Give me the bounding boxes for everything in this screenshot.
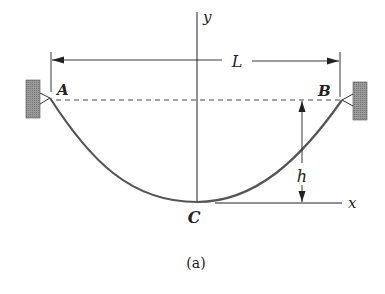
cable-curve xyxy=(50,98,342,202)
sag-arrowhead-bottom xyxy=(299,191,306,202)
sag-arrowhead-top xyxy=(299,101,306,112)
point-c-label: C xyxy=(188,208,201,227)
span-arrowhead-right xyxy=(327,58,339,65)
support-b-label: B xyxy=(317,82,331,100)
support-a-label: A xyxy=(55,81,69,99)
left-wall-support xyxy=(26,80,40,118)
sag-label: h xyxy=(297,167,307,186)
figure-caption: (a) xyxy=(186,255,205,271)
x-axis-label: x xyxy=(348,194,357,212)
right-pin-bracket xyxy=(342,94,353,106)
y-axis-label: y xyxy=(202,8,212,26)
right-wall-support xyxy=(353,82,367,120)
left-pin-bracket xyxy=(40,93,50,104)
cable-diagram: L y x A B h C (a) xyxy=(0,0,385,294)
span-arrowhead-left xyxy=(52,57,64,64)
span-label: L xyxy=(231,52,243,71)
